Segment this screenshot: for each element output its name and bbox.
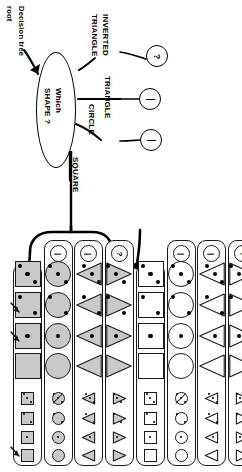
cell-pointer-arrows xyxy=(0,0,242,472)
figure-canvas: Decision tree root Which SHAPE ? INVERTE… xyxy=(0,0,242,472)
